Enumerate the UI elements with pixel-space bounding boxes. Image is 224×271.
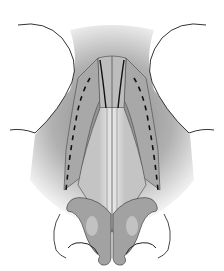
alar-crease-left (54, 214, 66, 258)
nose-anatomy-illustration (0, 0, 224, 271)
alar-crease-right (158, 214, 170, 258)
